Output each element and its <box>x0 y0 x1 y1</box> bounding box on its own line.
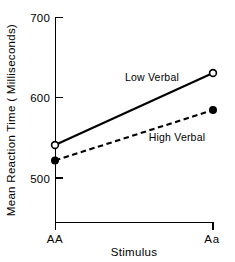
x-tick-label-aa: AA <box>47 233 64 245</box>
data-point-low-verbal-lower-aa <box>210 70 217 77</box>
data-point-low-verbal-aa <box>52 142 59 149</box>
x-axis-title: Stimulus <box>111 246 158 258</box>
y-tick-label-700: 700 <box>30 12 50 24</box>
series-label-low-verbal: Low Verbal <box>125 71 179 83</box>
series-label-high-verbal: High Verbal <box>149 131 205 143</box>
y-axis-title: Mean Reaction Time ( Milliseconds) <box>5 24 17 216</box>
y-tick-label-600: 600 <box>30 92 50 104</box>
x-tick-label-lower-aa: Aa <box>204 233 219 245</box>
data-point-high-verbal-aa <box>52 157 58 163</box>
y-tick-label-500: 500 <box>30 173 50 185</box>
chart-figure: 700 600 500 AA Aa Stimulus Mean Reaction… <box>0 0 235 262</box>
line-chart-canvas: 700 600 500 AA Aa Stimulus Mean Reaction… <box>0 0 235 262</box>
data-point-high-verbal-lower-aa <box>210 107 216 113</box>
